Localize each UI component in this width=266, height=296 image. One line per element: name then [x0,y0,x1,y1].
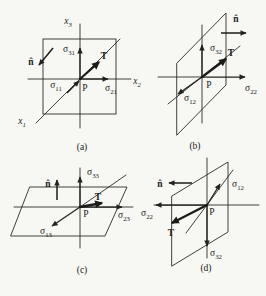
sigma33-label-c: σ33 [87,167,100,179]
traction-arrow-d [172,205,207,223]
sigma12-label-d: σ12 [232,179,245,191]
caption-a: (a) [77,142,88,153]
normal-label-d: n̂ [157,179,163,189]
point-p-dot-a [79,78,82,81]
caption-d: (d) [200,263,211,274]
x1-axis-line-a [36,39,120,123]
sigma11-label: σ11 [50,80,62,92]
traction-label-c: T [95,192,102,202]
traction-arrow-a [80,62,99,79]
normal-arrow-a [39,48,53,65]
point-p-dot-b [201,76,204,79]
sigma22-label-d: σ22 [141,208,154,220]
normal-label-c: n̂ [45,179,51,189]
traction-label-a: T [101,51,108,61]
sigma32-label-d: σ32 [210,248,223,260]
sigma12-label-b: σ12 [184,93,197,105]
normal-label-b: n̂ [233,14,239,24]
sigma13-label-c: σ13 [40,226,53,238]
point-p-label-c: P [83,209,88,219]
point-p-label-b: P [206,80,211,90]
traction-arrow-b [202,59,226,77]
x2-axis-label-a: x2 [132,76,141,88]
stress-components-figure: x3 x2 x1 n̂ σ31 σ11 σ21 T P (a) n̂ σ32 σ… [0,0,266,296]
point-p-label-a: P [82,83,87,93]
sigma11-arrow [67,81,79,93]
point-p-label-d: P [209,207,214,217]
sigma22-label-b: σ22 [245,83,258,95]
x1-axis-label-a: x1 [17,116,26,128]
subfigure-c: n̂ σ33 σ23 σ13 T P (c) [11,167,133,276]
sigma32-label-b: σ32 [210,43,223,55]
sigma12-arrow-b [178,77,202,94]
sigma12-arrow-d [207,184,220,205]
point-p-dot-c [79,206,82,209]
sigma23-label-c: σ23 [118,210,131,222]
point-p-dot-d [206,204,209,207]
normal-label-a: n̂ [28,57,34,67]
subfigure-b: n̂ σ32 σ22 σ12 T P (b) [158,13,258,152]
sigma21-label: σ21 [105,83,117,95]
figure-canvas: x3 x2 x1 n̂ σ31 σ11 σ21 T P (a) n̂ σ32 σ… [0,0,266,296]
diagonal-axis-line-c [80,175,126,207]
subfigure-d: n̂ σ12 σ22 σ32 T P (d) [141,158,259,274]
caption-c: (c) [77,265,88,276]
plane-c-parallelogram [11,187,127,236]
caption-b: (b) [189,141,200,152]
traction-label-d: T [168,228,175,238]
sigma31-label: σ31 [63,44,75,56]
sigma13-arrow-c [52,207,80,226]
x3-axis-label-a: x3 [63,16,72,28]
subfigure-a: x3 x2 x1 n̂ σ31 σ11 σ21 T P (a) [17,16,141,153]
traction-label-b: T [228,48,235,58]
